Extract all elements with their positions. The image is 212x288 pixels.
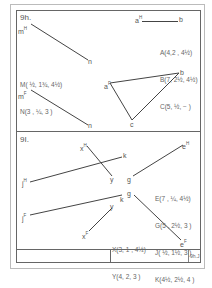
coord-y: Y(4, 2, 3 ) [112, 272, 146, 281]
line-eg-top-view [133, 145, 183, 176]
line-xy-front-view [89, 208, 112, 231]
label-n-top: n [88, 58, 92, 66]
coord-m: M( ½, 1¾, 4½) [20, 80, 62, 89]
label-c-front: c [130, 121, 134, 129]
label-x-front: xF [82, 230, 88, 241]
title-block-code: 9h.J [190, 253, 199, 259]
coordinates-abc: A(4,2 , 4½) B(7, 2½, 4½) C(5, ½, − ) [160, 30, 198, 129]
problem-number-9i: 9I. [20, 135, 29, 144]
coordinates-egjk: E(7 , ¼, 4½) G(5 , 2½, 3 ) J( ½, 1½, 3 )… [155, 176, 194, 288]
coord-k: K(4½, 2½, 4 ) [155, 275, 194, 284]
label-b-top: b [179, 16, 183, 24]
coord-g: G(5 , 2½, 3 ) [155, 221, 194, 230]
line-mn-top-view [31, 24, 88, 60]
label-k-top: k [123, 152, 127, 160]
label-b-front: b [180, 69, 184, 77]
label-k-front: k [120, 196, 124, 204]
label-a-top: aH [135, 14, 142, 25]
label-n-front: n [88, 122, 92, 130]
line-jk-top-view [30, 157, 122, 182]
coord-b: B(7, 2½, 4½) [160, 75, 198, 84]
label-j-front: jF [22, 212, 26, 223]
label-x-top: xH [80, 142, 87, 153]
label-a-front: aF [104, 80, 111, 91]
coord-n: N(3 , ¼, 3 ) [20, 107, 62, 116]
coord-e: E(7 , ¼, 4½) [155, 194, 194, 203]
label-e-top: eH [182, 140, 189, 151]
label-g-top: g [127, 176, 131, 184]
label-g-front: g [127, 190, 131, 198]
coord-a: A(4,2 , 4½) [160, 48, 198, 57]
coord-c: C(5, ½, − ) [160, 102, 198, 111]
problem-number-9h: 9h. [20, 13, 31, 22]
label-j-top: jH [22, 177, 27, 188]
coord-x: X(3, 1 , 4½) [112, 245, 146, 254]
coordinates-mn: M( ½, 1¾, 4½) N(3 , ¼, 3 ) [20, 62, 62, 134]
coordinates-xy: X(3, 1 , 4½) Y(4, 2, 3 ) [112, 227, 146, 288]
label-y-top: y [110, 176, 114, 184]
label-y-front: y [110, 203, 114, 211]
label-m-top: mH [18, 25, 27, 36]
coord-j: J( ½, 1½, 3 ) [155, 248, 194, 257]
